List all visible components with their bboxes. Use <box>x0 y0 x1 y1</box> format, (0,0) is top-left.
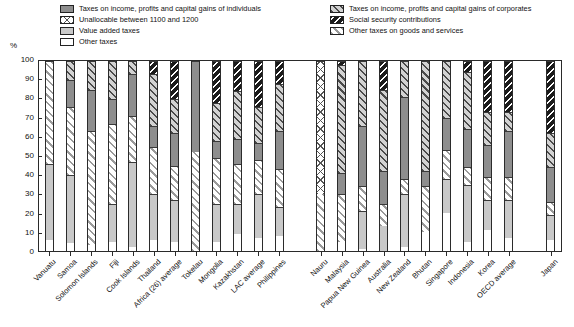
bar-tokelau[interactable] <box>191 61 200 251</box>
legend-item-other: Other taxes <box>60 37 261 47</box>
bar-solomon-islands[interactable] <box>87 61 96 251</box>
bar-segment-ssc <box>255 61 262 107</box>
y-tick-label-10: 10 <box>2 229 34 237</box>
bar-segment-goods <box>338 194 345 242</box>
legend-item-unallocable: Unallocable between 1100 and 1200 <box>60 15 261 25</box>
bar-segment-vat <box>171 200 178 242</box>
bar-samoa[interactable] <box>66 61 75 251</box>
y-tick-label-30: 30 <box>2 190 34 198</box>
bar-segment-goods <box>422 186 429 232</box>
y-tick-mark <box>38 79 42 80</box>
bar-segment-other <box>338 242 345 252</box>
bar-segment-corporates <box>213 103 220 141</box>
bar-segment-corporates <box>129 61 136 74</box>
bar-segment-goods <box>88 131 95 245</box>
bar-segment-ssc <box>171 61 178 99</box>
bar-segment-other <box>234 234 241 251</box>
x-label-fiji: Fiji <box>108 258 121 271</box>
bar-nauru[interactable] <box>316 61 325 251</box>
y-tick-label-60: 60 <box>2 133 34 141</box>
y-tick-label-50: 50 <box>2 152 34 160</box>
bar-new-zealand[interactable] <box>400 61 409 251</box>
bar-segment-corporates <box>547 133 554 167</box>
bar-segment-other <box>547 240 554 251</box>
bar-segment-goods <box>234 164 241 204</box>
bar-papua-new-guinea[interactable] <box>358 61 367 251</box>
bar-segment-individuals <box>150 126 157 147</box>
bar-philippines[interactable] <box>275 61 284 251</box>
bar-segment-vat <box>129 162 136 248</box>
bar-segment-individuals <box>359 126 366 187</box>
bar-segment-corporates <box>422 61 429 171</box>
bar-segment-other <box>443 213 450 251</box>
legend-item-vat: Value added taxes <box>60 26 261 36</box>
legend-swatch-unallocable <box>60 16 74 24</box>
bar-segment-other <box>88 245 95 251</box>
y-axis-unit-label: % <box>10 41 17 50</box>
legend-label-unallocable: Unallocable between 1100 and 1200 <box>79 16 198 24</box>
bar-segment-individuals <box>276 131 283 169</box>
bar-segment-ssc <box>547 61 554 133</box>
bar-australia[interactable] <box>379 61 388 251</box>
bar-segment-individuals <box>213 141 220 158</box>
bar-singapore[interactable] <box>442 61 451 251</box>
bar-indonesia[interactable] <box>463 61 472 251</box>
bar-thailand[interactable] <box>149 61 158 251</box>
bar-segment-ssc <box>213 61 220 103</box>
bar-segment-individuals <box>464 129 471 167</box>
bar-segment-vat <box>234 204 241 234</box>
bar-segment-ssc <box>234 61 241 91</box>
legend-swatch-vat <box>60 27 74 35</box>
bar-oecd-average[interactable] <box>504 61 513 251</box>
y-tick-mark <box>38 156 42 157</box>
bar-segment-vat <box>276 207 283 236</box>
legend-item-goods: Other taxes on goods and services <box>330 26 531 36</box>
bar-segment-other <box>484 230 491 251</box>
bar-segment-corporates <box>338 65 345 173</box>
legend-item-ssc: Social security contributions <box>330 15 531 25</box>
chart-root: Taxes on income, profits and capital gai… <box>0 0 574 327</box>
bar-japan[interactable] <box>546 61 555 251</box>
bar-segment-corporates <box>234 91 241 139</box>
bar-vanuatu[interactable] <box>45 61 54 251</box>
legend-label-vat: Value added taxes <box>79 27 140 35</box>
bar-segment-other <box>276 236 283 251</box>
bar-segment-other <box>422 232 429 251</box>
bar-segment-vat <box>67 175 74 243</box>
y-axis: 1009080706050403020100 <box>0 60 38 252</box>
bar-segment-corporates <box>484 112 491 144</box>
bar-bhutan[interactable] <box>421 61 430 251</box>
bar-segment-goods <box>401 179 408 194</box>
bar-segment-ssc <box>380 61 387 90</box>
bar-segment-goods <box>109 124 116 204</box>
bar-fiji[interactable] <box>108 61 117 251</box>
y-tick-label-20: 20 <box>2 210 34 218</box>
bar-segment-ssc <box>505 61 512 112</box>
bar-segment-goods <box>359 186 366 211</box>
bar-korea[interactable] <box>483 61 492 251</box>
bar-africa-26-average[interactable] <box>170 61 179 251</box>
bar-segment-vat <box>443 179 450 213</box>
bar-segment-corporates <box>443 61 450 118</box>
bar-malaysia[interactable] <box>337 61 346 251</box>
bar-segment-goods <box>443 150 450 179</box>
x-label-vanuatu: Vanuatu <box>33 258 58 283</box>
bar-segment-other <box>255 238 262 251</box>
bar-lac-average[interactable] <box>254 61 263 251</box>
bar-segment-corporates <box>464 72 471 129</box>
bar-segment-individuals <box>171 133 178 165</box>
bar-segment-individuals <box>422 171 429 186</box>
bar-kazakhstan[interactable] <box>233 61 242 251</box>
bar-segment-vat <box>547 215 554 240</box>
legend-label-goods: Other taxes on goods and services <box>349 27 463 35</box>
bar-segment-other <box>171 242 178 252</box>
bar-segment-goods <box>255 160 262 194</box>
bar-segment-other <box>213 242 220 252</box>
bar-segment-other <box>129 247 136 251</box>
legend-swatch-corporates <box>330 5 344 13</box>
bar-segment-ssc <box>338 61 345 65</box>
bar-segment-corporates <box>380 90 387 172</box>
bar-mongolia[interactable] <box>212 61 221 251</box>
bar-segment-other <box>401 247 408 251</box>
bar-cook-islands[interactable] <box>128 61 137 251</box>
